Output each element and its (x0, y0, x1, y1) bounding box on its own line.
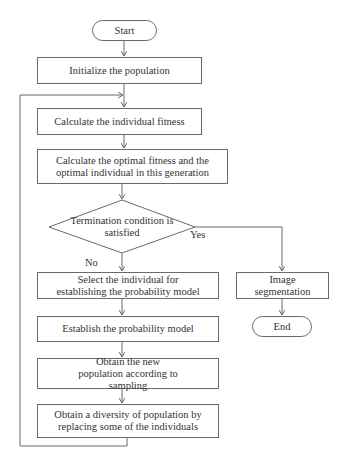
calculate-optimal-step: Calculate the optimal fitness and the op… (37, 149, 228, 184)
calculate-optimal-label: Calculate the optimal fitness and the op… (50, 155, 215, 179)
start-terminal: Start (92, 20, 157, 41)
termination-decision: Termination condition is satisfied (70, 215, 174, 239)
end-terminal: End (252, 316, 312, 337)
yes-label: Yes (190, 229, 205, 241)
end-label: End (274, 321, 291, 333)
population-diversity-step: Obtain a diversity of population by repl… (37, 404, 219, 438)
establish-model-label: Establish the probability model (62, 323, 194, 335)
select-individual-label: Select the individual for establishing t… (52, 274, 204, 298)
termination-decision-label: Termination condition is satisfied (70, 215, 173, 238)
establish-model-step: Establish the probability model (37, 316, 219, 342)
start-label: Start (115, 25, 135, 37)
no-label: No (85, 257, 98, 269)
initialize-population-label: Initialize the population (69, 65, 169, 77)
image-segmentation-label: Image segmentation (251, 274, 314, 298)
select-individual-step: Select the individual for establishing t… (37, 272, 219, 299)
image-segmentation-step: Image segmentation (236, 272, 329, 299)
initialize-population-step: Initialize the population (37, 57, 202, 84)
new-population-label: Obtain the new population according to s… (78, 356, 178, 392)
calculate-fitness-label: Calculate the individual fitness (54, 116, 184, 128)
calculate-fitness-step: Calculate the individual fitness (37, 108, 202, 135)
population-diversity-label: Obtain a diversity of population by repl… (46, 409, 210, 433)
new-population-step: Obtain the new population according to s… (37, 358, 219, 389)
